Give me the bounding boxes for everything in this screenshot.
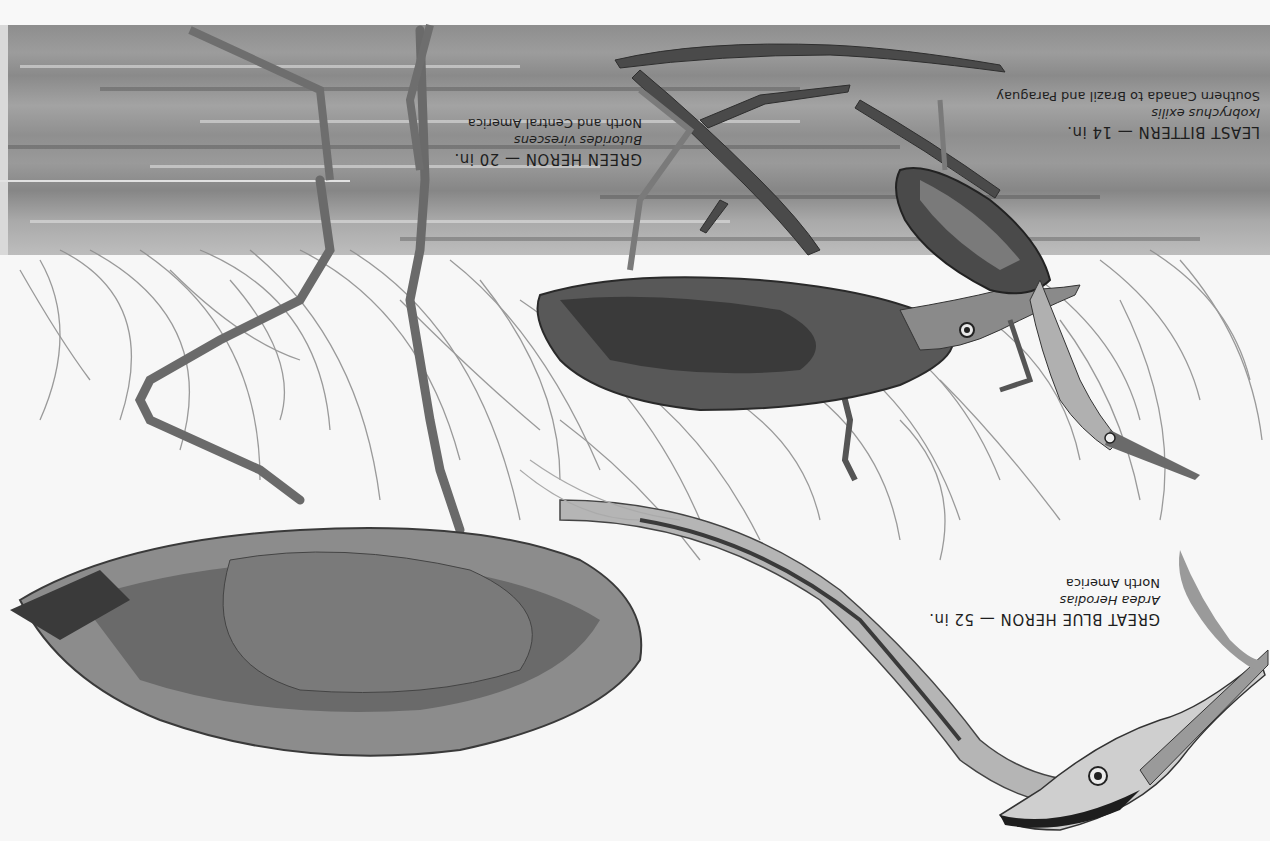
scientific-name: Butorides virescens — [372, 132, 642, 149]
illustration-plate: GREAT BLUE HERON — 52 in. Ardea Herodias… — [0, 0, 1270, 841]
scientific-name: Ardea Herodias — [880, 592, 1160, 609]
label-green-heron: GREEN HERON — 20 in. Butorides virescens… — [372, 115, 642, 168]
label-great-blue-heron: GREAT BLUE HERON — 52 in. Ardea Herodias… — [880, 575, 1160, 628]
species-name: GREEN HERON — 20 in. — [372, 149, 642, 168]
species-range: North and Central America — [372, 115, 642, 132]
species-name: LEAST BITTERN — 14 in. — [900, 122, 1260, 141]
species-range: North America — [880, 575, 1160, 592]
label-least-bittern: LEAST BITTERN — 14 in. Ixobrychus exilis… — [900, 88, 1260, 141]
scientific-name: Ixobrychus exilis — [900, 105, 1260, 122]
bittern-eye — [1105, 433, 1115, 443]
species-name: GREAT BLUE HERON — 52 in. — [880, 609, 1160, 628]
species-range: Southern Canada to Brazil and Paraguay — [900, 88, 1260, 105]
